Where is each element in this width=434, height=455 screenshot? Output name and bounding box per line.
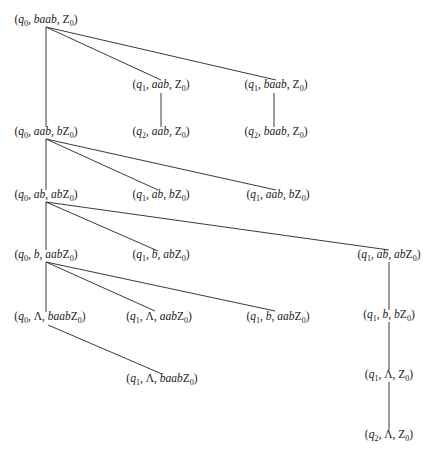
edge-n12-n16 (48, 325, 162, 374)
stack-bottom-index: 0 (78, 316, 82, 325)
stack-bottom-index: 0 (407, 314, 411, 323)
edge-n6-n11 (46, 202, 389, 250)
configuration-node: (q2, Λ, Z0) (365, 428, 413, 440)
configuration-node: (q0, baab, Z0) (15, 13, 78, 25)
stack-contents: abZ (163, 248, 182, 260)
state-index: 1 (256, 316, 260, 325)
configuration-node: (q2, baab, Z0) (245, 125, 308, 137)
remaining-input: Λ (146, 372, 154, 384)
state-index: 1 (136, 378, 140, 387)
edge-n3-n7 (46, 139, 158, 190)
state-index: 2 (142, 131, 146, 140)
stack-bottom-index: 0 (182, 131, 186, 140)
edge-n3-n8 (46, 139, 276, 190)
state-index: 1 (374, 374, 378, 383)
remaining-input: b (266, 310, 272, 322)
stack-contents: baabZ (48, 310, 78, 322)
stack-bottom-index: 0 (300, 84, 304, 93)
stack-bottom-index: 0 (182, 194, 186, 203)
edge-n9-n14 (46, 262, 275, 311)
configuration-node: (q0, Λ, baabZ0) (14, 310, 85, 322)
tree-edges (0, 0, 434, 455)
configuration-node: (q1, ab, abZ0) (358, 248, 421, 260)
state-index: 0 (24, 19, 28, 28)
state-index: 1 (367, 254, 371, 263)
stack-bottom-index: 0 (182, 84, 186, 93)
stack-contents: aabZ (45, 248, 69, 260)
edge-n9-n13 (46, 262, 155, 311)
stack-bottom-index: 0 (70, 19, 74, 28)
remaining-input: b (383, 308, 389, 320)
remaining-input: b (34, 248, 40, 260)
configuration-node: (q0, aab, bZ0) (15, 125, 78, 137)
remaining-input: b (152, 248, 158, 260)
stack-contents: aabZ (160, 310, 184, 322)
state-index: 0 (24, 131, 28, 140)
stack-contents: bZ (289, 188, 302, 200)
stack-bottom-index: 0 (302, 316, 306, 325)
stack-contents: bZ (394, 308, 407, 320)
stack-bottom-index: 0 (70, 194, 74, 203)
state-index: 1 (136, 316, 140, 325)
state-index: 0 (24, 254, 28, 263)
remaining-input: baab (264, 78, 287, 90)
remaining-input: Λ (34, 310, 42, 322)
stack-contents: bZ (57, 125, 70, 137)
stack-contents: abZ (51, 188, 70, 200)
remaining-input: ab (34, 188, 46, 200)
stack-bottom-index: 0 (413, 254, 417, 263)
stack-bottom-index: 0 (70, 131, 74, 140)
edge-n0-n1 (46, 27, 161, 80)
configuration-node: (q1, Λ, baabZ0) (126, 372, 197, 384)
remaining-input: baab (264, 125, 287, 137)
computation-tree-diagram: (q0, baab, Z0)(q1, aab, Z0)(q1, baab, Z0… (0, 0, 434, 455)
configuration-node: (q1, baab, Z0) (245, 78, 308, 90)
remaining-input: aab (152, 78, 169, 90)
remaining-input: Λ (384, 428, 392, 440)
stack-bottom-index: 0 (184, 316, 188, 325)
configuration-node: (q2, aab, Z0) (132, 125, 189, 137)
remaining-input: aab (152, 125, 169, 137)
configuration-node: (q0, ab, abZ0) (15, 188, 78, 200)
state-index: 0 (24, 194, 28, 203)
configuration-node: (q1, Λ, aabZ0) (126, 310, 192, 322)
edge-n0-n2 (46, 27, 276, 80)
stack-bottom-index: 0 (405, 434, 409, 443)
state-index: 1 (254, 84, 258, 93)
stack-contents: bZ (169, 188, 182, 200)
configuration-node: (q1, b, aabZ0) (247, 310, 310, 322)
remaining-input: Λ (146, 310, 154, 322)
configuration-node: (q1, b, bZ0) (363, 308, 414, 320)
stack-bottom-index: 0 (70, 254, 74, 263)
state-index: 1 (142, 84, 146, 93)
configuration-node: (q1, aab, bZ0) (247, 188, 310, 200)
stack-bottom-index: 0 (302, 194, 306, 203)
state-index: 2 (374, 434, 378, 443)
stack-bottom-index: 0 (190, 378, 194, 387)
remaining-input: aab (266, 188, 283, 200)
stack-bottom-index: 0 (300, 131, 304, 140)
remaining-input: ab (152, 188, 164, 200)
stack-contents: baabZ (160, 372, 190, 384)
configuration-node: (q1, b, abZ0) (132, 248, 189, 260)
remaining-input: baab (34, 13, 57, 25)
state-index: 1 (142, 254, 146, 263)
configuration-node: (q0, b, aabZ0) (15, 248, 78, 260)
state-index: 1 (142, 194, 146, 203)
state-index: 1 (256, 194, 260, 203)
remaining-input: aab (34, 125, 51, 137)
configuration-node: (q1, aab, Z0) (132, 78, 189, 90)
state-index: 0 (24, 316, 28, 325)
stack-bottom-index: 0 (405, 374, 409, 383)
stack-bottom-index: 0 (182, 254, 186, 263)
remaining-input: Λ (384, 368, 392, 380)
state-index: 1 (373, 314, 377, 323)
configuration-node: (q1, Λ, Z0) (365, 368, 413, 380)
stack-contents: abZ (394, 248, 413, 260)
configuration-node: (q1, ab, bZ0) (132, 188, 189, 200)
state-index: 2 (254, 131, 258, 140)
stack-contents: aabZ (277, 310, 301, 322)
remaining-input: ab (377, 248, 389, 260)
